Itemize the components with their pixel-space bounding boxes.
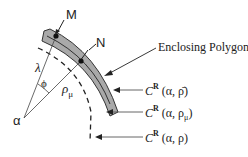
label-curve-bar: CR (α, ρ̄): [145, 83, 188, 97]
label-N: N: [96, 36, 105, 49]
curve-rho-args: (α, ρ): [162, 131, 188, 145]
arrowhead-curve-rho: [95, 134, 102, 140]
curve-rho-sup: R: [153, 129, 159, 138]
curve-mu-args-post: ): [188, 106, 192, 120]
curve-mu-sup: R: [153, 104, 159, 113]
curve-rho-c: C: [145, 131, 153, 145]
arrowhead-curve-bar: [113, 87, 120, 93]
curve-bar-sup: R: [153, 82, 159, 91]
leader-enclosing-polygon: [110, 48, 156, 73]
rho-sub: μ: [68, 89, 73, 99]
diagram-canvas: M N λ ϕ ρμ α Enclosing Polygon CR (α, ρ̄…: [0, 0, 248, 157]
curve-mu-c: C: [145, 106, 153, 120]
curve-bar-args: (α, ρ̄): [162, 84, 188, 98]
label-curve-mu: CR (α, ρμ): [145, 105, 192, 122]
label-M: M: [66, 8, 77, 21]
label-enclosing-polygon: Enclosing Polygon: [158, 41, 248, 53]
label-lambda: λ: [35, 61, 41, 74]
curve-bar-c: C: [145, 84, 153, 98]
curve-mu-args-pre: (α, ρ: [162, 106, 184, 120]
label-phi: ϕ: [41, 78, 47, 89]
label-alpha: α: [13, 114, 21, 127]
point-rho-mu: [78, 58, 83, 63]
label-rho-mu: ρμ: [62, 82, 73, 99]
label-curve-rho: CR (α, ρ): [145, 130, 188, 144]
leader-N: [89, 44, 96, 50]
diagram-graphics: [0, 0, 248, 157]
arrowhead-enclosing-polygon: [104, 70, 113, 76]
